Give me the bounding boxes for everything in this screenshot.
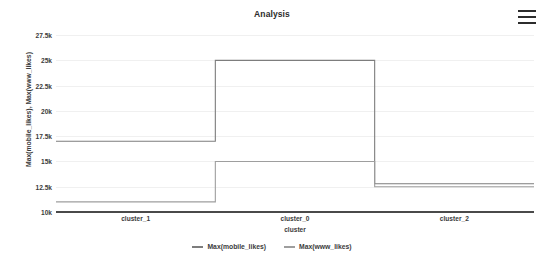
legend-item[interactable]: Max(www_likes) (284, 243, 352, 250)
plot-area (56, 25, 534, 212)
y-axis-tick-label: 17.5k (14, 133, 52, 140)
hamburger-bar-2 (518, 16, 536, 18)
x-axis-line (56, 211, 534, 213)
hamburger-bar-1 (518, 10, 536, 12)
x-axis-tick-label: cluster_2 (440, 215, 469, 222)
series-line (56, 60, 534, 183)
x-axis-tick-label: cluster_0 (281, 215, 310, 222)
hamburger-menu-icon[interactable] (518, 10, 536, 24)
chart-legend: Max(mobile_likes)Max(www_likes) (0, 243, 544, 250)
series-line (56, 161, 534, 201)
x-axis-title: cluster (56, 226, 534, 233)
x-axis-tick-label: cluster_1 (121, 215, 150, 222)
hamburger-bar-3 (518, 22, 536, 24)
series-lines (56, 25, 534, 212)
y-axis-tick-label: 12.5k (14, 183, 52, 190)
y-axis-tick-label: 25k (14, 57, 52, 64)
y-axis-tick-label: 22.5k (14, 82, 52, 89)
legend-color-swatch (284, 246, 295, 248)
y-axis-tick-label: 10k (14, 209, 52, 216)
legend-item[interactable]: Max(mobile_likes) (192, 243, 266, 250)
legend-item-label: Max(www_likes) (299, 243, 352, 250)
y-axis-tick-label: 27.5k (14, 32, 52, 39)
analysis-chart: Analysis Max(mobile_likes), Max(www_like… (0, 0, 544, 267)
y-axis-tick-label: 20k (14, 107, 52, 114)
legend-item-label: Max(mobile_likes) (207, 243, 266, 250)
y-axis-tick-label: 15k (14, 158, 52, 165)
legend-color-swatch (192, 246, 203, 248)
page-title: Analysis (0, 9, 544, 19)
